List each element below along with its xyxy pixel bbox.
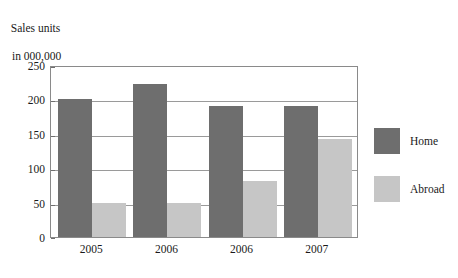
legend-label-abroad: Abroad [410,183,445,195]
y-axis-tick-mark [51,170,55,171]
legend-label-home: Home [410,135,438,147]
legend-item-home: Home [374,128,454,154]
y-axis-tick-label: 150 [28,129,45,141]
y-axis-title-line-1: Sales units [11,22,61,34]
chart-legend: HomeAbroad [374,128,454,224]
bar-abroad-2006-1 [167,203,201,237]
bars-layer [51,67,357,237]
bar-home-2006-1 [133,84,167,237]
bar-abroad-2005-0 [92,203,126,237]
legend-item-abroad: Abroad [374,176,454,202]
legend-swatch-home [374,128,400,154]
y-axis-tick-mark [51,238,55,239]
plot-area [50,66,358,238]
x-axis-tick-label: 2006 [230,243,253,255]
bar-home-2006-2 [209,106,243,237]
y-axis-tick-label: 200 [28,94,45,106]
y-axis-tick-mark [51,136,55,137]
x-axis-tick-label: 2005 [80,243,103,255]
y-axis-tick-mark [51,205,55,206]
legend-swatch-abroad [374,176,400,202]
y-axis-tick-label: 50 [34,198,46,210]
y-axis-tick-mark [51,101,55,102]
bar-home-2005-0 [58,99,92,237]
x-axis-tick-labels: 2005200620062007 [50,243,358,263]
bar-abroad-2006-2 [243,181,277,237]
y-axis-tick-label: 250 [28,60,45,72]
x-axis-tick-label: 2006 [155,243,178,255]
x-axis-tick-label: 2007 [305,243,328,255]
y-axis-tick-mark [51,67,55,68]
y-axis-tick-label: 100 [28,163,45,175]
bar-abroad-2007-3 [318,139,352,237]
bar-home-2007-3 [284,106,318,237]
y-axis-tick-labels: 050100150200250 [0,66,45,238]
y-axis-tick-label: 0 [39,232,45,244]
